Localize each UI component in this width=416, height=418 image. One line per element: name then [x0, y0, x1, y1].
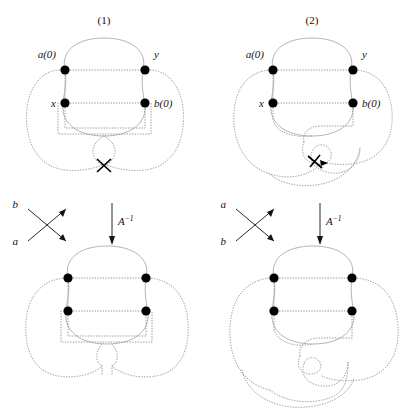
- panel-1b-vertex-top-right: [141, 273, 150, 282]
- panel-1-vertex-top-left: [60, 65, 69, 74]
- panel-1-label-a0: a(0): [38, 48, 57, 61]
- panel-1b-vertex-bottom-right: [141, 306, 150, 315]
- panel-1-label-y: y: [153, 48, 159, 60]
- panel-1b-vertex-top-left: [63, 273, 72, 282]
- vertices-layer: a(0) y x b(0) a(0) y x b(0): [0, 0, 416, 418]
- panel-2-vertex-top-right: [348, 65, 357, 74]
- panel-2b-vertex-top-left: [269, 273, 278, 282]
- panel-2b-vertex-bottom-right: [347, 306, 356, 315]
- panel-1b-vertex-bottom-left: [63, 306, 72, 315]
- panel-2-label-x: x: [258, 97, 264, 109]
- knot-diagram-figure: (1) (2): [0, 0, 416, 418]
- panel-2-vertex-bottom-left: [268, 98, 277, 107]
- panel-2b-vertex-top-right: [347, 273, 356, 282]
- panel-2-label-b0: b(0): [362, 97, 381, 110]
- panel-2b-vertex-bottom-left: [269, 306, 278, 315]
- panel-1-vertex-bottom-left: [60, 98, 69, 107]
- panel-1-label-x: x: [50, 97, 56, 109]
- panel-1-vertex-bottom-right: [140, 98, 149, 107]
- panel-2-vertex-top-left: [268, 65, 277, 74]
- panel-2-label-a0: a(0): [246, 48, 265, 61]
- panel-2-vertex-bottom-right: [348, 98, 357, 107]
- panel-1-vertex-top-right: [140, 65, 149, 74]
- panel-1-label-b0: b(0): [154, 97, 173, 110]
- panel-2-label-y: y: [361, 48, 367, 60]
